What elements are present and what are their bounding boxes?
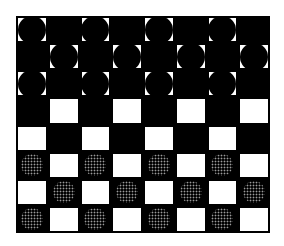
- board-square-r2-c1[interactable]: [48, 70, 80, 97]
- board-square-r6-c2[interactable]: [80, 179, 112, 206]
- board-square-r0-c0[interactable]: [16, 16, 48, 43]
- board-square-r5-c4[interactable]: [143, 152, 175, 179]
- board-square-r0-c4[interactable]: [143, 16, 175, 43]
- board-square-r4-c6[interactable]: [207, 125, 239, 152]
- black-checker-piece[interactable]: [18, 70, 46, 98]
- dotted-checker-piece[interactable]: [243, 181, 265, 203]
- board-square-r5-c3[interactable]: [111, 152, 143, 179]
- board-square-r6-c0[interactable]: [16, 179, 48, 206]
- dotted-checker-piece[interactable]: [84, 154, 106, 176]
- board-square-r1-c4[interactable]: [143, 43, 175, 70]
- board-square-r1-c5[interactable]: [175, 43, 207, 70]
- dotted-checker-piece[interactable]: [211, 208, 233, 230]
- black-checker-piece[interactable]: [208, 70, 236, 98]
- board-square-r5-c7[interactable]: [238, 152, 270, 179]
- dotted-checker-piece[interactable]: [116, 181, 138, 203]
- board-square-r7-c2[interactable]: [80, 206, 112, 233]
- dotted-checker-piece[interactable]: [148, 208, 170, 230]
- black-checker-piece[interactable]: [81, 70, 109, 98]
- board-square-r0-c2[interactable]: [80, 16, 112, 43]
- board-square-r5-c6[interactable]: [207, 152, 239, 179]
- board-square-r0-c5[interactable]: [175, 16, 207, 43]
- board-square-r3-c3[interactable]: [111, 97, 143, 124]
- dotted-checker-piece[interactable]: [180, 181, 202, 203]
- board-square-r1-c2[interactable]: [80, 43, 112, 70]
- dotted-checker-piece[interactable]: [84, 208, 106, 230]
- dotted-checker-piece[interactable]: [21, 208, 43, 230]
- dotted-checker-piece[interactable]: [211, 154, 233, 176]
- black-checker-piece[interactable]: [145, 16, 173, 44]
- board-square-r3-c2[interactable]: [80, 97, 112, 124]
- board-square-r4-c4[interactable]: [143, 125, 175, 152]
- board-square-r5-c0[interactable]: [16, 152, 48, 179]
- black-checker-piece[interactable]: [145, 70, 173, 98]
- board-square-r2-c0[interactable]: [16, 70, 48, 97]
- dotted-checker-piece[interactable]: [53, 181, 75, 203]
- board-square-r7-c5[interactable]: [175, 206, 207, 233]
- board-square-r1-c7[interactable]: [238, 43, 270, 70]
- black-checker-piece[interactable]: [208, 16, 236, 44]
- board-square-r2-c3[interactable]: [111, 70, 143, 97]
- board-square-r5-c2[interactable]: [80, 152, 112, 179]
- dark-square-fill: [143, 43, 175, 70]
- board-square-r1-c3[interactable]: [111, 43, 143, 70]
- board-square-r4-c5[interactable]: [175, 125, 207, 152]
- board-square-r4-c3[interactable]: [111, 125, 143, 152]
- black-checker-piece[interactable]: [81, 16, 109, 44]
- dark-square-fill: [48, 125, 80, 152]
- board-square-r1-c0[interactable]: [16, 43, 48, 70]
- board-square-r3-c1[interactable]: [48, 97, 80, 124]
- board-square-r1-c6[interactable]: [207, 43, 239, 70]
- board-square-r5-c1[interactable]: [48, 152, 80, 179]
- light-square-fill: [177, 208, 205, 231]
- board-square-r2-c7[interactable]: [238, 70, 270, 97]
- board-square-r6-c5[interactable]: [175, 179, 207, 206]
- board-square-r6-c6[interactable]: [207, 179, 239, 206]
- board-square-r4-c1[interactable]: [48, 125, 80, 152]
- dark-square-fill: [48, 70, 80, 97]
- board-square-r6-c4[interactable]: [143, 179, 175, 206]
- black-checker-piece[interactable]: [18, 16, 46, 44]
- board-square-r6-c3[interactable]: [111, 179, 143, 206]
- board-square-r0-c7[interactable]: [238, 16, 270, 43]
- board-square-r7-c6[interactable]: [207, 206, 239, 233]
- dotted-checker-piece[interactable]: [148, 154, 170, 176]
- light-square-fill: [240, 208, 268, 231]
- black-checker-piece[interactable]: [240, 43, 268, 71]
- board-square-r3-c4[interactable]: [143, 97, 175, 124]
- black-checker-piece[interactable]: [113, 43, 141, 71]
- board-square-r7-c1[interactable]: [48, 206, 80, 233]
- dark-square-fill: [238, 16, 270, 43]
- board-square-r3-c5[interactable]: [175, 97, 207, 124]
- dark-square-fill: [175, 70, 207, 97]
- board-square-r1-c1[interactable]: [48, 43, 80, 70]
- board-square-r6-c1[interactable]: [48, 179, 80, 206]
- checkers-board: [16, 16, 270, 233]
- dark-square-fill: [207, 97, 239, 124]
- board-square-r0-c1[interactable]: [48, 16, 80, 43]
- board-square-r4-c7[interactable]: [238, 125, 270, 152]
- board-square-r3-c6[interactable]: [207, 97, 239, 124]
- dark-square-fill: [111, 70, 143, 97]
- dark-square-fill: [175, 125, 207, 152]
- board-square-r6-c7[interactable]: [238, 179, 270, 206]
- board-square-r5-c5[interactable]: [175, 152, 207, 179]
- board-square-r0-c3[interactable]: [111, 16, 143, 43]
- board-square-r2-c6[interactable]: [207, 70, 239, 97]
- dotted-checker-piece[interactable]: [21, 154, 43, 176]
- board-square-r4-c0[interactable]: [16, 125, 48, 152]
- board-square-r2-c5[interactable]: [175, 70, 207, 97]
- board-square-r3-c7[interactable]: [238, 97, 270, 124]
- board-square-r7-c4[interactable]: [143, 206, 175, 233]
- black-checker-piece[interactable]: [50, 43, 78, 71]
- light-square-fill: [50, 99, 78, 122]
- board-square-r7-c0[interactable]: [16, 206, 48, 233]
- board-square-r2-c2[interactable]: [80, 70, 112, 97]
- board-square-r7-c3[interactable]: [111, 206, 143, 233]
- board-square-r2-c4[interactable]: [143, 70, 175, 97]
- black-checker-piece[interactable]: [177, 43, 205, 71]
- board-square-r7-c7[interactable]: [238, 206, 270, 233]
- board-square-r0-c6[interactable]: [207, 16, 239, 43]
- board-square-r3-c0[interactable]: [16, 97, 48, 124]
- board-square-r4-c2[interactable]: [80, 125, 112, 152]
